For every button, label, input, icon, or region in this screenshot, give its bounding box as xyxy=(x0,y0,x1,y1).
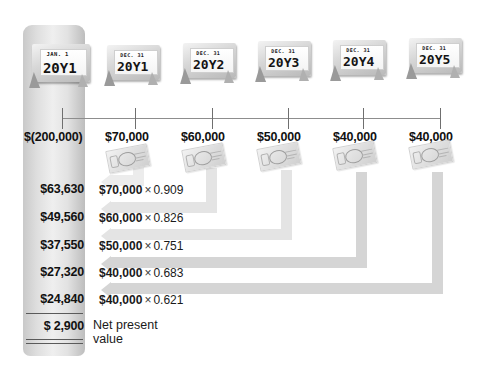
date-sign-plate: DEC. 31 20Y4 xyxy=(333,40,386,75)
date-sign-face: JAN. 1 20Y1 xyxy=(40,49,87,76)
formula-row-1: $60,000×0.826 xyxy=(99,211,183,225)
total-rule-top xyxy=(26,313,83,314)
present-value-0: $63,630 xyxy=(22,182,84,196)
formula-factor: 0.826 xyxy=(153,211,183,225)
money-bill-line xyxy=(134,151,144,154)
formula-amount: $40,000 xyxy=(99,293,142,307)
timeline-tick-5 xyxy=(440,108,441,129)
formula-operator: × xyxy=(142,183,153,197)
date-sign-month: DEC. 31 xyxy=(271,48,295,54)
present-value-1: $49,560 xyxy=(22,210,84,224)
money-bill-line xyxy=(438,151,448,154)
date-sign-stand-right xyxy=(299,68,309,81)
date-sign-stand-right xyxy=(78,74,88,87)
date-sign-0: JAN. 1 20Y1 xyxy=(32,44,90,82)
timeline-tick-0 xyxy=(62,108,63,129)
date-sign-2: DEC. 31 20Y2 xyxy=(183,43,236,78)
money-bill-line xyxy=(136,159,144,162)
date-sign-year: 20Y3 xyxy=(268,55,299,70)
npv-timeline-figure: JAN. 1 20Y1 DEC. 31 20Y1 DEC. 31 20Y2 xyxy=(0,0,483,376)
formula-factor: 0.751 xyxy=(153,239,183,253)
formula-operator: × xyxy=(142,293,153,307)
formula-factor: 0.621 xyxy=(153,293,183,307)
date-sign-year: 20Y5 xyxy=(419,52,450,67)
present-value-2: $37,550 xyxy=(22,238,84,252)
date-sign-3: DEC. 31 20Y3 xyxy=(258,41,311,76)
cash-flow-label-0: $(200,000) xyxy=(24,130,82,144)
net-present-value-label: Net present value xyxy=(93,318,158,346)
date-sign-4: DEC. 31 20Y4 xyxy=(333,40,386,75)
formula-amount: $70,000 xyxy=(99,183,142,197)
date-sign-plate: DEC. 31 20Y3 xyxy=(258,41,311,76)
money-bill-icon-4 xyxy=(332,140,378,171)
formula-row-3: $40,000×0.683 xyxy=(99,266,183,280)
date-sign-5: DEC. 31 20Y5 xyxy=(409,38,462,73)
connector-vertical-year4 xyxy=(356,172,367,268)
date-sign-stand-left xyxy=(27,72,40,88)
date-sign-year: 20Y1 xyxy=(117,59,148,74)
timeline-tick-2 xyxy=(212,108,213,129)
date-sign-plate: DEC. 31 20Y5 xyxy=(409,38,462,73)
money-bill-line xyxy=(210,150,220,153)
cash-flow-label-1: $70,000 xyxy=(105,130,149,144)
date-sign-year: 20Y4 xyxy=(343,54,374,69)
formula-factor: 0.909 xyxy=(153,183,183,197)
date-sign-year: 20Y2 xyxy=(193,57,224,72)
formula-operator: × xyxy=(142,266,153,280)
money-bill-line xyxy=(212,158,220,161)
money-bill-icon-3 xyxy=(256,141,302,172)
money-bill-line xyxy=(437,147,447,150)
formula-amount: $60,000 xyxy=(99,211,142,225)
money-bill-line xyxy=(362,152,372,155)
date-sign-month: DEC. 31 xyxy=(422,45,446,51)
date-sign-stand-right xyxy=(224,70,234,83)
present-value-3: $27,320 xyxy=(22,265,84,279)
date-sign-plate: DEC. 31 20Y1 xyxy=(107,45,160,80)
total-rule-bottom-1 xyxy=(26,339,83,340)
money-bill-line xyxy=(439,155,447,158)
date-sign-plate: DEC. 31 20Y2 xyxy=(183,43,236,78)
timeline-tick-1 xyxy=(135,108,136,129)
net-present-value-total: $ 2,900 xyxy=(22,319,84,333)
timeline-tick-4 xyxy=(363,108,364,129)
npv-label-line1: Net present xyxy=(93,318,158,332)
date-sign-stand-right xyxy=(374,67,384,80)
date-sign-month: DEC. 31 xyxy=(196,50,220,56)
money-bill-icon-2 xyxy=(181,142,227,173)
formula-amount: $50,000 xyxy=(99,239,142,253)
connector-vertical-year5 xyxy=(432,172,443,294)
date-sign-month: JAN. 1 xyxy=(47,51,69,57)
money-bill-line xyxy=(135,155,145,158)
date-sign-month: DEC. 31 xyxy=(120,52,144,58)
money-bill-line xyxy=(211,154,221,157)
date-sign-stand-right xyxy=(148,72,158,85)
timeline-axis xyxy=(62,118,440,119)
money-bill-line xyxy=(363,156,371,159)
formula-row-4: $40,000×0.621 xyxy=(99,293,183,307)
date-sign-month: DEC. 31 xyxy=(346,47,370,53)
formula-amount: $40,000 xyxy=(99,266,142,280)
present-value-4: $24,840 xyxy=(22,292,84,306)
money-bill-line xyxy=(286,153,296,156)
formula-factor: 0.683 xyxy=(153,266,183,280)
formula-row-0: $70,000×0.909 xyxy=(99,183,183,197)
date-sign-plate: JAN. 1 20Y1 xyxy=(32,44,90,82)
timeline-tick-3 xyxy=(288,108,289,129)
date-sign-1: DEC. 31 20Y1 xyxy=(107,45,160,80)
formula-operator: × xyxy=(142,211,153,225)
money-bill-line xyxy=(285,149,295,152)
formula-operator: × xyxy=(142,239,153,253)
total-rule-bottom-2 xyxy=(26,343,83,344)
money-bill-line xyxy=(361,148,371,151)
date-sign-year: 20Y1 xyxy=(43,60,77,76)
date-sign-stand-right xyxy=(450,65,460,78)
formula-row-2: $50,000×0.751 xyxy=(99,239,183,253)
npv-label-line2: value xyxy=(93,332,158,346)
money-bill-line xyxy=(287,157,295,160)
